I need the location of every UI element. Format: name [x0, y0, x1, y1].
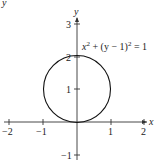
x-tick-label: 2 [141, 126, 146, 137]
y-axis-label: y [73, 6, 79, 17]
x-tick-label: 1 [108, 126, 113, 137]
y-tick-label: −1 [61, 150, 72, 161]
x-tick-label: −1 [36, 126, 47, 137]
y-axis-arrow-icon [75, 17, 79, 22]
corner-label: y [1, 0, 7, 8]
x-axis-arrow-icon [142, 120, 147, 124]
equation-label: x2 + (y − 1)2 = 1 [81, 40, 147, 53]
y-tick-label: 1 [66, 84, 71, 95]
chart: −2 −1 1 2 3 2 1 −1 x y y x2 + (y − 1)2 =… [0, 0, 159, 161]
y-tick-label: 2 [66, 52, 71, 63]
x-axis-label: x [148, 116, 154, 127]
y-tick-label: 3 [66, 19, 71, 30]
x-tick-label: −2 [2, 126, 13, 137]
